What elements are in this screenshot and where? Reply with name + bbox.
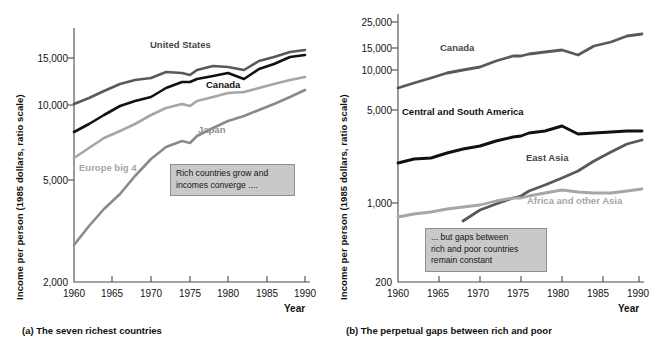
figure-container: Income per person (1985 dollars, ratio s…	[0, 0, 652, 356]
series-label-canada-b: Canada	[440, 43, 474, 54]
panel-b-caption: (b) The perpetual gaps between rich and …	[346, 325, 552, 336]
series-line-canada	[74, 55, 305, 132]
panel-a-x-ticks	[112, 276, 305, 282]
panel-b-annotation-note: ... but gaps between rich and poor count…	[425, 228, 547, 272]
series-label-united-states: United States	[150, 40, 211, 51]
panel-a-x-axis-title: Year	[284, 303, 305, 314]
series-label-japan: Japan	[198, 125, 225, 136]
series-line-central-and-south-america	[398, 126, 642, 163]
series-label-canada: Canada	[206, 80, 240, 91]
series-label-africa-and-other-asia: Africa and other Asia	[527, 196, 622, 207]
series-line-canada	[398, 34, 642, 88]
panel-b-x-ticks	[439, 276, 639, 282]
panel-a-y-ticks	[68, 58, 74, 180]
panel-a-axis-lines	[74, 28, 310, 282]
panel-a-caption: (a) The seven richest countries	[22, 325, 162, 336]
series-label-europe-big-4: Europe big 4	[79, 163, 137, 174]
panel-a-annotation-note: Rich countries grow and incomes converge…	[170, 164, 295, 196]
panel-a: Income per person (1985 dollars, ratio s…	[0, 0, 330, 356]
series-line-united-states	[74, 50, 305, 104]
panel-b-y-ticks	[392, 22, 398, 203]
panel-b: Income per person (1985 dollars, ratio s…	[330, 0, 652, 356]
series-label-central-and-south-america: Central and South America	[402, 107, 524, 118]
panel-b-x-axis-title: Year	[618, 303, 639, 314]
series-label-east-asia: East Asia	[526, 153, 568, 164]
